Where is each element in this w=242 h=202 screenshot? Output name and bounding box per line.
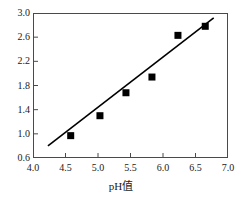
x-tick-label: 6.5	[181, 163, 211, 173]
x-tick-label: 7.0	[213, 163, 242, 173]
y-tick-label: 2.2	[2, 56, 30, 66]
x-axis-tick-labels: 4.04.55.05.56.06.57.0	[0, 163, 242, 177]
x-tick-label: 4.0	[18, 163, 48, 173]
y-tick-label: 1.4	[2, 105, 30, 115]
y-tick-label: 2.6	[2, 32, 30, 42]
y-tick-label: 3.0	[2, 8, 30, 18]
y-tick-label: 0.6	[2, 153, 30, 163]
plot-area	[33, 13, 228, 158]
y-tick-label: 1.8	[2, 81, 30, 91]
x-tick-label: 5.5	[116, 163, 146, 173]
chart-figure: 0.61.01.41.82.22.63.0 4.04.55.05.56.06.5…	[0, 0, 242, 202]
y-tick-label: 1.0	[2, 129, 30, 139]
x-tick-label: 5.0	[83, 163, 113, 173]
x-tick-label: 6.0	[148, 163, 178, 173]
x-tick-label: 4.5	[51, 163, 81, 173]
x-axis-label: pH值	[0, 180, 242, 192]
